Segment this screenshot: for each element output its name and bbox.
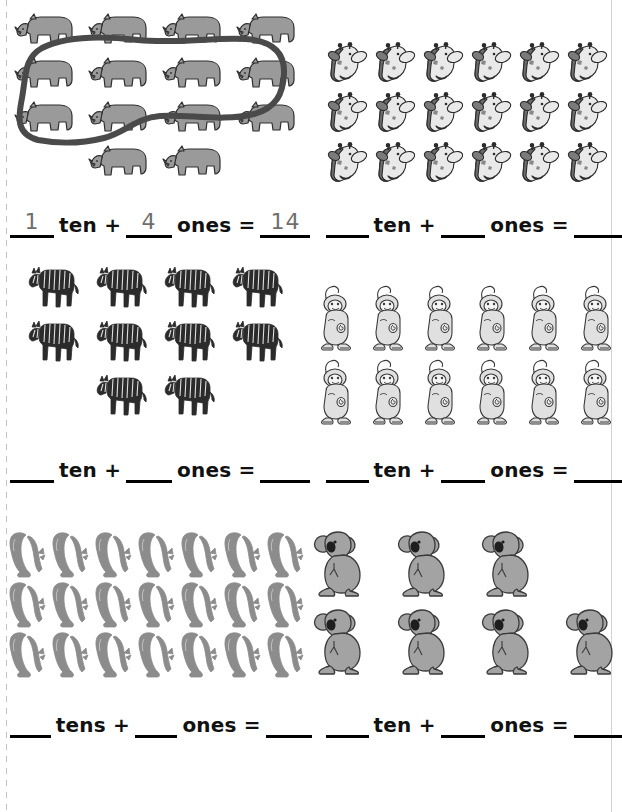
giraffe-head-icon bbox=[326, 40, 368, 84]
result-blank-6[interactable] bbox=[574, 712, 622, 738]
seal-icon bbox=[136, 581, 176, 629]
rhino-icon bbox=[162, 54, 224, 94]
seal-group bbox=[0, 495, 312, 695]
equation-5: tens + ones = bbox=[0, 712, 312, 738]
seal-icon bbox=[179, 531, 219, 579]
animal-row bbox=[14, 98, 298, 138]
tens-blank-1[interactable]: 1 bbox=[10, 212, 54, 238]
animal-row bbox=[326, 140, 608, 184]
rhino-group bbox=[0, 0, 312, 190]
giraffe-head-icon bbox=[470, 140, 512, 184]
ones-answer-1: 4 bbox=[126, 211, 172, 233]
giraffe-head-icon bbox=[374, 90, 416, 134]
result-blank-5[interactable] bbox=[266, 712, 312, 738]
animal-row bbox=[326, 90, 608, 134]
seal-icon bbox=[222, 581, 262, 629]
ones-label-3: ones = bbox=[172, 458, 260, 482]
monkey-icon bbox=[574, 284, 620, 356]
rhino-icon bbox=[14, 10, 76, 50]
ones-blank-2[interactable] bbox=[441, 212, 486, 238]
animal-row bbox=[7, 531, 305, 579]
tens-label-2: ten + bbox=[369, 213, 441, 237]
giraffe-head-icon bbox=[518, 140, 560, 184]
rhino-icon bbox=[162, 10, 224, 50]
tens-blank-5[interactable] bbox=[10, 712, 51, 738]
seal-icon bbox=[93, 581, 133, 629]
ones-blank-5[interactable] bbox=[135, 712, 178, 738]
animal-row bbox=[7, 631, 305, 679]
rhino-icon bbox=[162, 98, 224, 138]
result-blank-2[interactable] bbox=[574, 212, 622, 238]
seal-icon bbox=[50, 531, 90, 579]
zebra-icon bbox=[27, 262, 81, 314]
seal-icon bbox=[7, 581, 47, 629]
tens-blank-3[interactable] bbox=[10, 457, 54, 483]
ones-blank-6[interactable] bbox=[441, 712, 486, 738]
ones-blank-4[interactable] bbox=[441, 457, 486, 483]
equation-1: 1 ten + 4 ones = 14 bbox=[0, 212, 312, 238]
zebra-icon bbox=[95, 316, 149, 368]
rhino-icon bbox=[162, 142, 224, 182]
tens-blank-4[interactable] bbox=[326, 457, 369, 483]
giraffe-head-icon bbox=[470, 90, 512, 134]
ones-label-5: ones = bbox=[177, 713, 265, 737]
seal-icon bbox=[265, 581, 305, 629]
seal-icon bbox=[50, 581, 90, 629]
seal-icon bbox=[50, 631, 90, 679]
ones-blank-1[interactable]: 4 bbox=[126, 212, 172, 238]
monkey-icon bbox=[366, 284, 412, 356]
koala-icon bbox=[310, 607, 372, 679]
rhino-icon bbox=[88, 54, 150, 94]
tens-blank-2[interactable] bbox=[326, 212, 369, 238]
zebra-icon bbox=[95, 370, 149, 422]
tens-blank-6[interactable] bbox=[326, 712, 369, 738]
animal-row bbox=[88, 142, 224, 182]
animal-row bbox=[27, 262, 285, 314]
ones-label-1: ones = bbox=[172, 213, 260, 237]
rhino-icon bbox=[88, 10, 150, 50]
seal-icon bbox=[179, 581, 219, 629]
koala-icon bbox=[478, 607, 540, 679]
equation-3: ten + ones = bbox=[0, 457, 312, 483]
problem-5: tens + ones = bbox=[0, 495, 312, 750]
monkey-icon bbox=[314, 284, 360, 356]
koala-icon bbox=[562, 607, 622, 679]
monkey-icon bbox=[418, 358, 464, 430]
animal-row bbox=[14, 54, 298, 94]
monkey-icon bbox=[574, 358, 620, 430]
giraffe-head-icon bbox=[422, 40, 464, 84]
zebra-icon bbox=[231, 262, 285, 314]
giraffe-head-icon bbox=[374, 40, 416, 84]
giraffe-head-icon bbox=[566, 40, 608, 84]
zebra-icon bbox=[163, 262, 217, 314]
result-answer-1: 14 bbox=[260, 211, 310, 233]
equation-4: ten + ones = bbox=[312, 457, 622, 483]
animal-row bbox=[7, 581, 305, 629]
giraffe-head-icon bbox=[374, 140, 416, 184]
problem-4: ten + ones = bbox=[312, 250, 622, 495]
zebra-icon bbox=[163, 370, 217, 422]
koala-icon bbox=[478, 529, 540, 601]
problem-2: ten + ones = bbox=[312, 0, 622, 250]
result-blank-4[interactable] bbox=[574, 457, 622, 483]
animal-row bbox=[95, 370, 217, 422]
seal-icon bbox=[222, 631, 262, 679]
animal-row bbox=[314, 284, 620, 356]
ones-blank-3[interactable] bbox=[126, 457, 172, 483]
result-blank-1[interactable]: 14 bbox=[260, 212, 310, 238]
result-blank-3[interactable] bbox=[260, 457, 310, 483]
tens-answer-1: 1 bbox=[10, 211, 54, 233]
monkey-group bbox=[312, 250, 622, 440]
giraffe-head-icon bbox=[422, 90, 464, 134]
tens-label-4: ten + bbox=[369, 458, 441, 482]
giraffe-head-icon bbox=[566, 90, 608, 134]
koala-icon bbox=[394, 607, 456, 679]
ones-label-4: ones = bbox=[485, 458, 573, 482]
seal-icon bbox=[136, 531, 176, 579]
monkey-icon bbox=[418, 284, 464, 356]
giraffe-head-icon bbox=[422, 140, 464, 184]
monkey-icon bbox=[522, 284, 568, 356]
animal-row bbox=[326, 40, 608, 84]
rhino-icon bbox=[88, 142, 150, 182]
giraffe-head-icon bbox=[326, 140, 368, 184]
